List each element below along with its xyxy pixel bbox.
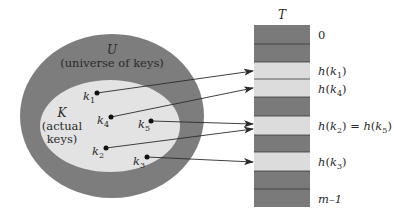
table-slot-2 [254,62,310,79]
key-point-k1 [95,91,100,96]
actual-keys-symbol: K [57,106,68,120]
table-slot-5 [254,116,310,135]
table-slot-6 [254,135,310,152]
slot-label-0: 0 [318,28,325,42]
key-point-k3 [145,155,150,160]
slot-label-h-k2-eq-h-k5: h(k2) = h(k5) [318,119,392,135]
key-point-k4 [109,115,114,120]
slot-label-h-k1: h(k1) [318,64,346,80]
actual-keys-caption-2: keys) [47,132,78,146]
table-slot-4 [254,97,310,116]
universe-symbol: U [107,43,118,57]
table-slot-8 [254,171,310,189]
table-slot-0 [254,25,310,44]
slot-label-h-k4: h(k4) [318,82,346,98]
hash-table [254,25,310,207]
table-slot-1 [254,44,310,62]
table-slot-3 [254,79,310,97]
slot-label-h-k3: h(k3) [318,155,346,171]
table-symbol: T [278,8,287,22]
actual-keys-caption-1: (actual [42,119,83,133]
hash-table-diagram: U (universe of keys) K (actual keys) T 0… [0,0,394,219]
table-slot-7 [254,152,310,171]
key-point-k2 [104,146,109,151]
table-slot-9 [254,189,310,207]
slot-label-m-minus-1: m–1 [318,192,342,206]
universe-caption: (universe of keys) [60,56,164,70]
key-point-k5 [149,119,154,124]
